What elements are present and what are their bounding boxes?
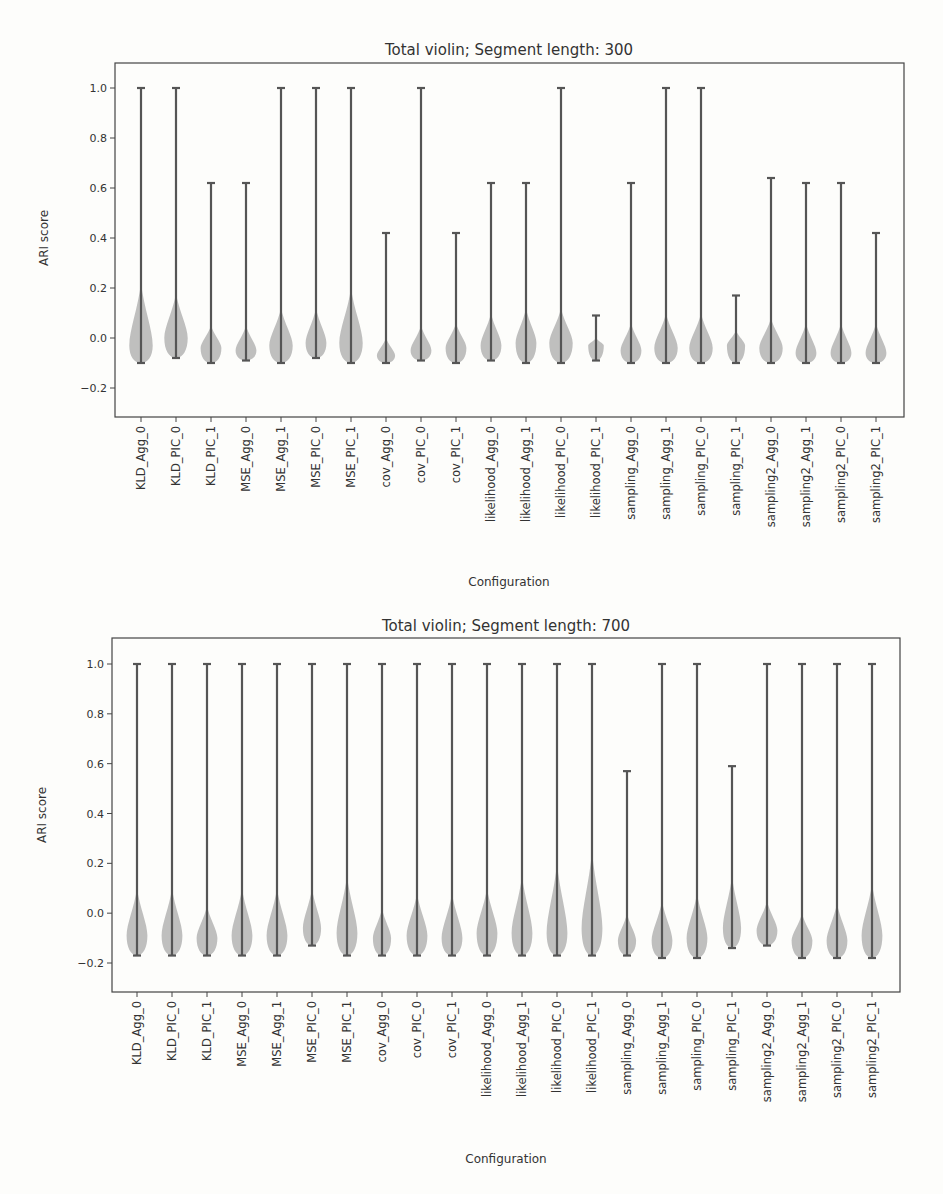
x-tick-label: sampling_Agg_0 [620,1001,634,1095]
x-tick-label: MSE_PIC_1 [344,426,358,488]
violin-MSE_PIC_1 [339,88,362,363]
violin-sampling_PIC_1 [727,296,745,364]
violin-likelihood_Agg_1 [516,183,537,363]
x-tick-label: cov_PIC_0 [414,426,428,483]
x-tick-label: KLD_Agg_0 [134,426,148,490]
y-ticks: −0.20.00.20.40.60.81.0 [80,82,115,395]
violin-sampling2_Agg_1 [792,664,813,958]
x-tick-label: likelihood_Agg_0 [484,426,498,522]
x-tick-label: sampling2_PIC_1 [869,426,883,523]
chart-title: Total violin; Segment length: 300 [384,41,633,59]
violin-MSE_Agg_0 [236,183,257,361]
violin-sampling2_Agg_0 [759,178,782,363]
x-tick-label: likelihood_PIC_0 [550,1001,564,1093]
y-axis-label: ARI score [35,787,49,843]
violin-KLD_PIC_0 [162,664,183,956]
x-tick-label: MSE_Agg_0 [239,426,253,492]
violin-KLD_PIC_1 [201,183,222,363]
x-tick-label: KLD_PIC_0 [169,426,183,486]
violin-cov_Agg_0 [373,664,391,956]
x-tick-label: MSE_PIC_0 [305,1001,319,1063]
x-tick-label: cov_PIC_1 [445,1001,459,1058]
x-tick-label: MSE_PIC_1 [340,1001,354,1063]
violin-likelihood_PIC_1 [588,316,604,361]
y-tick-label: 0.6 [90,182,108,195]
violin-sampling2_PIC_0 [831,183,852,363]
x-tick-label: MSE_Agg_1 [274,426,288,492]
violin-plot-seg700: Total violin; Segment length: 700 Config… [0,597,943,1194]
x-tick-label: likelihood_Agg_1 [519,426,533,522]
y-ticks: −0.20.00.20.40.60.81.0 [77,658,112,970]
x-tick-label: likelihood_Agg_0 [480,1001,494,1097]
violin-likelihood_PIC_1 [582,664,603,956]
x-tick-label: sampling2_Agg_1 [795,1001,809,1102]
x-tick-label: cov_PIC_1 [449,426,463,483]
x-tick-label: sampling2_PIC_0 [834,426,848,523]
x-tick-label: sampling_PIC_0 [690,1001,704,1091]
violin-likelihood_Agg_0 [477,664,498,956]
x-tick-label: likelihood_Agg_1 [515,1001,529,1097]
violin-likelihood_Agg_0 [481,183,502,361]
y-tick-label: −0.2 [80,382,107,395]
y-tick-label: 0.2 [87,857,105,870]
violin-KLD_Agg_0 [127,664,148,956]
violin-sampling_PIC_0 [689,88,712,363]
violin-likelihood_PIC_0 [547,664,568,956]
y-axis-label: ARI score [37,210,51,266]
x-tick-label: KLD_PIC_0 [165,1001,179,1061]
violin-MSE_PIC_0 [303,664,321,946]
violin-cov_PIC_0 [411,88,432,361]
y-tick-label: 0.8 [90,132,108,145]
violins [129,88,886,363]
violin-cov_PIC_0 [407,664,428,956]
x-tick-label: cov_Agg_0 [379,426,393,487]
violin-sampling2_Agg_1 [796,183,817,363]
violin-chart-seg700: Total violin; Segment length: 700 Config… [0,597,943,1194]
y-tick-label: 0.4 [87,808,105,821]
x-tick-label: KLD_PIC_1 [200,1001,214,1061]
x-tick-label: cov_PIC_0 [410,1001,424,1058]
x-tick-label: sampling_Agg_0 [624,426,638,520]
violin-cov_PIC_1 [442,664,463,956]
y-tick-label: −0.2 [77,957,104,970]
x-axis-label: Configuration [468,575,549,589]
x-ticks: KLD_Agg_0KLD_PIC_0KLD_PIC_1MSE_Agg_0MSE_… [134,417,883,527]
violin-sampling2_PIC_0 [827,664,848,958]
x-tick-label: sampling_PIC_0 [694,426,708,516]
y-tick-label: 1.0 [87,658,105,671]
x-tick-label: KLD_PIC_1 [204,426,218,486]
x-tick-label: sampling2_PIC_1 [865,1001,879,1098]
y-tick-label: 0.8 [87,708,105,721]
violin-sampling_Agg_0 [618,771,636,955]
x-tick-label: likelihood_PIC_0 [554,426,568,518]
plot-frame [115,63,904,417]
violin-likelihood_PIC_0 [549,88,572,363]
x-tick-label: sampling2_PIC_0 [830,1001,844,1098]
plot-frame [112,638,900,992]
violin-sampling2_PIC_1 [862,664,883,958]
violin-MSE_PIC_1 [337,664,358,956]
x-tick-label: likelihood_PIC_1 [585,1001,599,1093]
violin-likelihood_Agg_1 [512,664,533,956]
violin-KLD_PIC_0 [164,88,187,358]
violin-sampling_PIC_1 [723,766,741,948]
x-tick-label: sampling_PIC_1 [729,426,743,516]
x-axis-label: Configuration [465,1152,546,1166]
violin-MSE_Agg_1 [267,664,288,956]
violin-sampling_Agg_0 [621,183,642,363]
violin-sampling2_Agg_0 [757,664,778,946]
violins [127,664,883,958]
x-tick-label: sampling_Agg_1 [655,1001,669,1095]
y-tick-label: 0.4 [90,232,108,245]
y-tick-label: 0.0 [87,907,105,920]
x-tick-label: MSE_Agg_1 [270,1001,284,1067]
violin-sampling_PIC_0 [687,664,708,958]
violin-KLD_PIC_1 [197,664,218,956]
violin-cov_PIC_1 [446,233,467,363]
x-tick-label: MSE_PIC_0 [309,426,323,488]
x-tick-label: sampling_PIC_1 [725,1001,739,1091]
chart-title: Total violin; Segment length: 700 [381,617,630,635]
violin-MSE_Agg_0 [232,664,253,956]
y-tick-label: 1.0 [90,82,108,95]
violin-sampling_Agg_1 [652,664,673,958]
